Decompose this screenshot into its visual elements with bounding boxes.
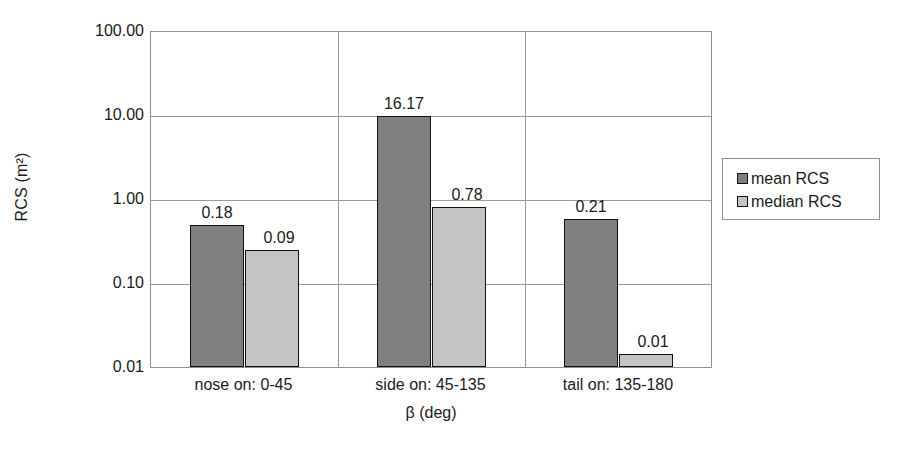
gridline-1 [151, 200, 711, 201]
bar-label-mean-nose-on: 0.18 [185, 205, 249, 221]
bar-label-median-side-on: 0.78 [435, 187, 499, 203]
bar-label-median-nose-on: 0.09 [247, 230, 311, 246]
bar-label-mean-side-on: 16.17 [367, 96, 441, 112]
bar-label-median-tail-on: 0.01 [621, 334, 685, 350]
plot-area: 0.18 0.09 16.17 0.78 0.21 0.01 [150, 31, 712, 368]
legend-item-median-rcs[interactable]: median RCS [737, 190, 879, 213]
x-tick-label-side-on: side on: 45-135 [337, 376, 524, 394]
x-tick-label-nose-on: nose on: 0-45 [150, 376, 337, 394]
bar-mean-side-on[interactable] [377, 116, 431, 367]
legend-label-mean-rcs: mean RCS [751, 170, 829, 188]
bar-label-mean-tail-on: 0.21 [559, 199, 623, 215]
y-axis-tick-labels: 100.00 10.00 1.00 0.10 0.01 [48, 31, 144, 368]
category-separator-1 [338, 32, 339, 367]
bar-mean-nose-on[interactable] [190, 225, 244, 367]
bar-median-nose-on[interactable] [245, 250, 299, 367]
y-tick-label-100: 100.00 [52, 23, 144, 39]
y-tick-label-10: 10.00 [52, 107, 144, 123]
legend-item-mean-rcs[interactable]: mean RCS [737, 167, 879, 190]
chart-legend: mean RCS median RCS [722, 158, 880, 220]
y-axis-title: RCS (m²) [13, 127, 31, 247]
x-axis-title: β (deg) [150, 404, 712, 422]
bar-median-side-on[interactable] [432, 207, 486, 367]
x-axis-tick-labels: nose on: 0-45 side on: 45-135 tail on: 1… [150, 376, 712, 398]
bar-mean-tail-on[interactable] [564, 219, 618, 367]
rcs-bar-chart: RCS (m²) 100.00 10.00 1.00 0.10 0.01 0.1… [0, 0, 914, 452]
legend-swatch-mean-rcs [737, 173, 748, 184]
y-tick-label-0-10: 0.10 [52, 275, 144, 291]
x-tick-label-tail-on: tail on: 135-180 [524, 376, 712, 394]
y-tick-label-1: 1.00 [52, 191, 144, 207]
y-tick-label-0-01: 0.01 [52, 359, 144, 375]
legend-label-median-rcs: median RCS [751, 193, 842, 211]
bar-median-tail-on[interactable] [619, 354, 673, 367]
category-separator-2 [525, 32, 526, 367]
gridline-10 [151, 116, 711, 117]
legend-swatch-median-rcs [737, 196, 748, 207]
